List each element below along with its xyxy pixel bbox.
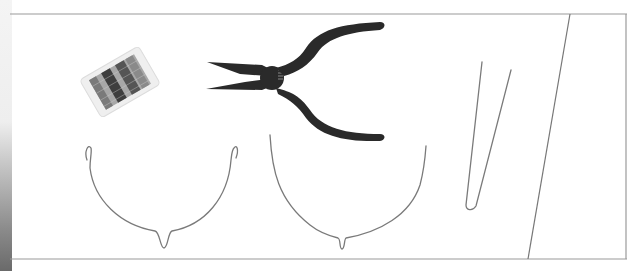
wire-form-left	[86, 147, 238, 248]
wire-form-v	[466, 62, 511, 210]
needle-nose-pliers	[206, 22, 385, 141]
photo-scene: Jewelry-making supplies on a white page:…	[0, 0, 642, 271]
wire-spool	[80, 46, 161, 118]
wire-form-middle	[270, 135, 426, 249]
